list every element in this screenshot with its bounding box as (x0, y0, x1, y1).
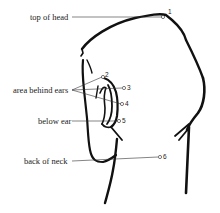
point-marker-5 (117, 119, 120, 122)
point-number-6: 6 (163, 154, 167, 161)
cheek-inner-stroke (87, 60, 92, 73)
point-marker-3 (122, 86, 125, 89)
label-below-ear: below ear (38, 117, 71, 126)
jaw-stroke (105, 139, 117, 203)
ear-inner (107, 85, 112, 124)
label-back-of-neck: back of neck (24, 157, 67, 166)
point-marker-1 (161, 15, 164, 18)
head-outline (82, 14, 203, 78)
head-outline-drawing (0, 0, 220, 213)
point-number-3: 3 (127, 85, 131, 92)
back-of-head-outline (187, 78, 204, 130)
ear-fold (100, 87, 106, 124)
point-number-4: 4 (125, 101, 129, 108)
point-number-2: 2 (105, 72, 109, 79)
label-top-of-head: top of head (30, 13, 68, 22)
head-points-diagram: top of head area behind ears below ear b… (0, 0, 220, 213)
face-outline (81, 49, 83, 56)
label-area-behind-ears: area behind ears (13, 86, 68, 95)
neck-right-outline (186, 127, 189, 193)
point-marker-4 (120, 102, 123, 105)
point-marker-6 (158, 155, 161, 158)
ear-front-stroke (96, 86, 98, 98)
point-number-5: 5 (122, 118, 126, 125)
point-number-1: 1 (168, 9, 172, 16)
